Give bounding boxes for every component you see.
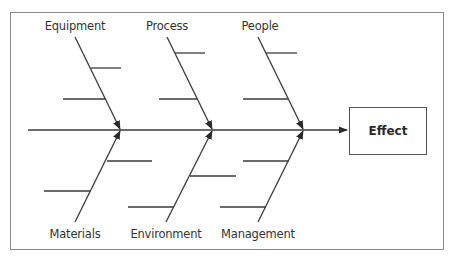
category-label-people: People (241, 19, 278, 33)
category-label-materials: Materials (50, 227, 101, 241)
bone-materials (75, 131, 120, 222)
bone-management (258, 131, 303, 222)
category-label-equipment: Equipment (45, 19, 106, 33)
bone-people (258, 37, 303, 129)
bone-equipment (75, 37, 120, 129)
bone-process (167, 37, 212, 129)
effect-box: Effect (349, 107, 427, 155)
category-label-process: Process (146, 19, 188, 33)
effect-label: Effect (369, 124, 408, 138)
category-label-management: Management (221, 227, 295, 241)
category-label-environment: Environment (130, 227, 201, 241)
